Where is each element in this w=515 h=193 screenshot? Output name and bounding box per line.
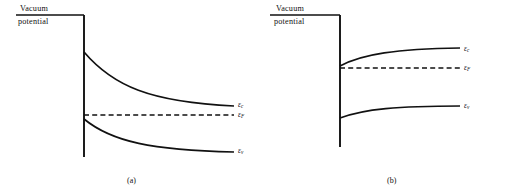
- panel-caption-b: (b): [387, 176, 396, 185]
- valence-band-label: εv: [464, 101, 469, 110]
- vacuum-label-top: Vacuum: [20, 4, 48, 13]
- vacuum-label-bottom: potential: [18, 17, 48, 26]
- panel-caption-a: (a): [127, 176, 136, 185]
- conduction-band-curve: [84, 52, 234, 106]
- valence-band-label: εv: [238, 146, 243, 155]
- valence-band-curve: [84, 119, 234, 152]
- conduction-band-label: εc: [464, 44, 469, 53]
- vacuum-label-top: Vacuum: [276, 4, 304, 13]
- valence-band-curve: [340, 106, 460, 118]
- fermi-level-label: εF: [464, 63, 470, 72]
- conduction-band-label: εc: [238, 100, 243, 109]
- conduction-band-curve: [340, 48, 460, 66]
- vacuum-label-bottom: potential: [274, 17, 304, 26]
- panel-a: Vacuum potential εc εF εv (a): [0, 0, 257, 193]
- band-diagram-figure: Vacuum potential εc εF εv (a) Vacuum pot…: [0, 0, 515, 193]
- fermi-level-label: εF: [238, 110, 244, 119]
- panel-b: Vacuum potential εc εF εv (b): [258, 0, 515, 193]
